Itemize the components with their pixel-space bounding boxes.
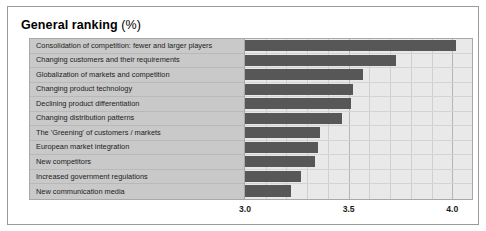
- bar: [245, 171, 301, 182]
- category-row: Changing customers and their requirement…: [30, 54, 244, 69]
- bar: [245, 113, 342, 124]
- bar: [245, 69, 363, 80]
- bar: [245, 84, 353, 95]
- bar-rows: [245, 39, 472, 199]
- category-row: Changing product technology: [30, 83, 244, 98]
- plot-area: [245, 38, 473, 200]
- bar: [245, 142, 318, 153]
- bar: [245, 127, 320, 138]
- bar-row: [245, 170, 472, 185]
- category-label: Changing product technology: [36, 86, 132, 93]
- bar-row: [245, 39, 472, 54]
- x-axis-tick-label: 3.0: [239, 204, 251, 214]
- category-label: The 'Greening' of customers / markets: [36, 129, 161, 136]
- category-row: New communication media: [30, 184, 244, 199]
- bar-row: [245, 112, 472, 127]
- category-label: Consolidation of competition: fewer and …: [36, 42, 212, 49]
- category-label: European market integration: [36, 144, 129, 151]
- bar-row: [245, 184, 472, 199]
- figure-frame: General ranking (%) Consolidation of com…: [7, 6, 479, 225]
- category-row: New competitors: [30, 155, 244, 170]
- bar-row: [245, 68, 472, 83]
- bar-row: [245, 83, 472, 98]
- bar-row: [245, 155, 472, 170]
- x-axis-tick-label: 3.5: [343, 204, 355, 214]
- category-label: Declining product differentiation: [36, 100, 139, 107]
- bar-row: [245, 54, 472, 69]
- category-row: Globalization of markets and competition: [30, 68, 244, 83]
- chart-title-unit: (%): [121, 18, 141, 32]
- x-axis: 3.03.54.0: [29, 200, 473, 220]
- category-row: The 'Greening' of customers / markets: [30, 126, 244, 141]
- category-label: New competitors: [36, 158, 91, 165]
- bar: [245, 40, 456, 51]
- page-title: General ranking (%): [21, 18, 141, 32]
- bar-row: [245, 97, 472, 112]
- chart-screenshot: General ranking (%) Consolidation of com…: [0, 0, 486, 231]
- category-row: Changing distribution patterns: [30, 112, 244, 127]
- bar: [245, 98, 351, 109]
- category-row: Increased government regulations: [30, 170, 244, 185]
- category-label-panel: Consolidation of competition: fewer and …: [29, 38, 245, 200]
- category-label: Changing customers and their requirement…: [36, 57, 180, 64]
- category-label: New communication media: [36, 188, 125, 195]
- category-label: Globalization of markets and competition: [36, 71, 170, 78]
- plot-block: Consolidation of competition: fewer and …: [29, 38, 473, 200]
- category-row: European market integration: [30, 141, 244, 156]
- category-row: Declining product differentiation: [30, 97, 244, 112]
- bar: [245, 156, 315, 167]
- bar-row: [245, 141, 472, 156]
- bar-row: [245, 126, 472, 141]
- category-label: Increased government regulations: [36, 173, 148, 180]
- category-row: Consolidation of competition: fewer and …: [30, 39, 244, 54]
- bar: [245, 185, 291, 197]
- x-axis-tick-label: 4.0: [446, 204, 458, 214]
- chart-title-main: General ranking: [21, 18, 118, 32]
- category-label: Changing distribution patterns: [36, 115, 134, 122]
- bar: [245, 55, 396, 66]
